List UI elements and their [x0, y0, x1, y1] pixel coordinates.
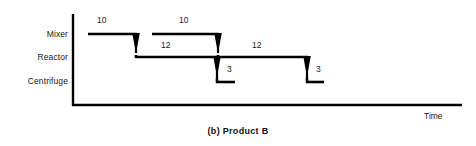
duration-label-reactor-batch-1: 12: [161, 40, 170, 50]
x-axis-label-time: Time: [424, 111, 443, 121]
transfer-arrow-mixer-reactor-1: [132, 33, 140, 58]
transfer-arrow-reactor-centrifuge-2: [303, 56, 311, 83]
duration-label-centrifuge-batch-1: 3: [227, 64, 232, 74]
transfer-arrow-mixer-reactor-2: [214, 33, 222, 58]
duration-label-mixer-batch-2: 10: [179, 15, 188, 25]
gantt-diagram-svg: [0, 0, 476, 146]
row-label-reactor: Reactor: [38, 52, 68, 62]
row-label-mixer: Mixer: [47, 29, 68, 39]
process-gantt-figure: Mixer Reactor Centrifuge 10 10 12 12 3 3…: [0, 0, 476, 146]
figure-caption: (b) Product B: [0, 126, 476, 136]
duration-label-mixer-batch-1: 10: [97, 15, 106, 25]
duration-label-centrifuge-batch-2: 3: [316, 64, 321, 74]
row-label-centrifuge: Centrifuge: [28, 76, 68, 86]
duration-label-reactor-batch-2: 12: [252, 40, 261, 50]
transfer-arrow-reactor-centrifuge-1: [213, 56, 221, 83]
